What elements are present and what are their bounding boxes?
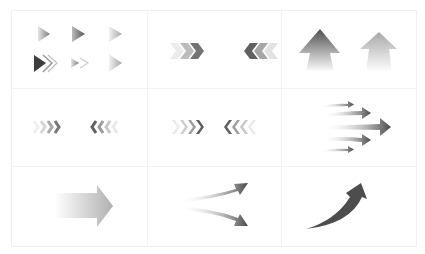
double-arrow-icon [34, 55, 46, 72]
chevron-quad-thin-icons [172, 120, 256, 134]
chevron-quad-small-icons [34, 121, 117, 133]
triangle-arrow-icon [109, 54, 122, 72]
triangle-arrow-icon [72, 26, 85, 42]
curved-up-arrow-icon [306, 183, 367, 229]
up-arrow-light-icon [360, 32, 397, 72]
up-arrow-icons [299, 29, 397, 72]
chevron-pair-large-icons [170, 43, 278, 59]
triangle-arrow-icon [109, 26, 122, 42]
split-arrow-icons [180, 183, 248, 226]
curved-arrow-down-icon [180, 207, 248, 226]
triangle-arrow-icon [38, 26, 50, 42]
triangle-arrow-icons [34, 26, 122, 72]
block-arrow-icon [55, 185, 113, 227]
small-arrow-icon [71, 58, 79, 68]
curved-arrow-up-icon [180, 183, 248, 202]
up-arrow-dark-icon [299, 29, 340, 72]
speed-arrow-icons [320, 101, 391, 153]
arrow-artwork [0, 0, 425, 254]
